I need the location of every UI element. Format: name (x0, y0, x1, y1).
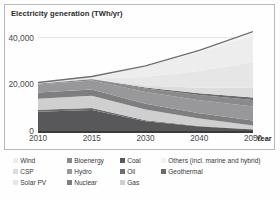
legend-swatch-icon (13, 169, 18, 174)
legend-label: Geothermal (168, 168, 202, 175)
stacked-area-svg (38, 26, 253, 131)
legend-label: CSP (20, 168, 34, 175)
legend-swatch-icon (13, 180, 18, 185)
legend-label: Bioenergy (74, 157, 104, 164)
y-axis-tick: 40,000 (8, 33, 34, 43)
legend-swatch-icon (120, 158, 125, 163)
legend-label: Others (incl. marine and hybrid) (168, 157, 260, 164)
legend-label: Oil (127, 168, 135, 175)
y-axis-tick: 20,000 (8, 79, 34, 89)
x-axis-tick: 2010 (29, 134, 47, 143)
x-axis-label: Year (256, 134, 272, 143)
legend-swatch-icon (120, 169, 125, 174)
legend-label: Coal (127, 157, 141, 164)
legend-swatch-icon (67, 180, 72, 185)
legend-item: Oil (120, 168, 135, 175)
legend-swatch-icon (67, 158, 72, 163)
legend-item: Hydro (67, 168, 92, 175)
legend-swatch-icon (161, 169, 166, 174)
legend-item: Solar PV (13, 179, 46, 186)
chart-title: Electricity generation (TWh/yr) (11, 9, 123, 18)
legend-item: Gas (120, 179, 139, 186)
chart-figure: Electricity generation (TWh/yr) 020,0004… (0, 0, 280, 200)
legend-item: Coal (120, 157, 141, 164)
legend-item: Nuclear (67, 179, 97, 186)
legend-swatch-icon (67, 169, 72, 174)
y-axis-tick-labels: 020,00040,000 (0, 26, 34, 131)
x-axis-line (38, 131, 253, 133)
legend-label: Gas (127, 179, 139, 186)
legend-label: Solar PV (20, 179, 46, 186)
legend-item: CSP (13, 168, 34, 175)
plot-area (38, 26, 253, 131)
legend-label: Nuclear (74, 179, 97, 186)
legend-item: Wind (13, 157, 35, 164)
legend-label: Hydro (74, 168, 92, 175)
legend-swatch-icon (161, 158, 166, 163)
legend-swatch-icon (13, 158, 18, 163)
legend-swatch-icon (120, 180, 125, 185)
legend-label: Wind (20, 157, 35, 164)
legend-item: Bioenergy (67, 157, 104, 164)
chart-legend: WindCSPSolar PVBioenergyHydroNuclearCoal… (13, 157, 275, 195)
legend-item: Geothermal (161, 168, 203, 175)
legend-item: Others (incl. marine and hybrid) (161, 157, 261, 164)
x-axis-tick: 2030 (136, 134, 154, 143)
x-axis-tick: 2040 (190, 134, 208, 143)
x-axis-tick: 2015 (83, 134, 101, 143)
x-axis-tick-labels: 20102015203020402050 (38, 134, 253, 146)
